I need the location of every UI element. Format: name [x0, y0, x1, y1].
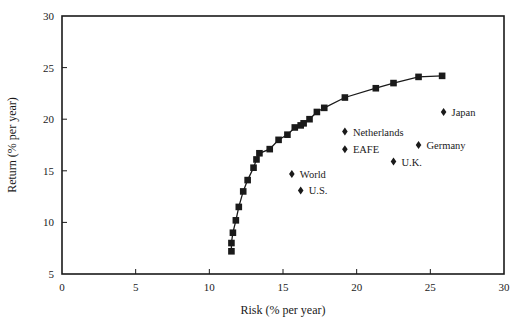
x-axis-title: Risk (% per year): [241, 303, 326, 317]
frontier-square-marker: [284, 131, 291, 138]
market-point-label: Japan: [452, 107, 477, 118]
market-point: U.K.: [391, 157, 422, 168]
market-point-label: EAFE: [353, 144, 379, 155]
frontier-square-marker: [244, 177, 251, 184]
y-axis-ticks: 51015202530: [43, 10, 67, 280]
frontier-square-marker: [240, 188, 247, 195]
market-point-label: U.S.: [309, 185, 328, 196]
y-tick-label: 20: [43, 113, 55, 125]
x-tick-label: 30: [499, 281, 511, 293]
diamond-marker-icon: [298, 186, 304, 194]
market-point: EAFE: [342, 144, 379, 155]
frontier-square-marker: [233, 217, 240, 224]
x-tick-label: 25: [425, 281, 437, 293]
frontier-square-marker: [306, 116, 313, 123]
market-point: World: [289, 169, 327, 180]
frontier-square-marker: [256, 150, 263, 157]
diamond-marker-icon: [441, 108, 447, 116]
frontier-square-marker: [342, 94, 349, 101]
market-point-label: U.K.: [402, 157, 422, 168]
y-tick-label: 10: [43, 216, 55, 228]
diamond-marker-icon: [416, 141, 422, 149]
market-point-label: Germany: [427, 140, 467, 151]
frontier-square-marker: [390, 80, 397, 87]
frontier-square-marker: [228, 240, 235, 247]
x-tick-label: 0: [59, 281, 65, 293]
x-tick-label: 20: [351, 281, 363, 293]
market-point: Japan: [441, 107, 476, 118]
frontier-square-marker: [321, 105, 328, 112]
market-point: Netherlands: [342, 127, 404, 138]
market-points-series: JapanNetherlandsGermanyEAFEU.K.WorldU.S.: [289, 107, 476, 196]
x-tick-label: 5: [133, 281, 139, 293]
frontier-square-marker: [230, 229, 237, 236]
frontier-square-marker: [415, 74, 422, 81]
market-point-label: Netherlands: [353, 127, 404, 138]
frontier-square-marker: [314, 109, 321, 116]
diamond-marker-icon: [342, 128, 348, 136]
frontier-square-marker: [236, 204, 243, 211]
x-tick-label: 10: [204, 281, 216, 293]
frontier-square-marker: [373, 85, 380, 92]
y-tick-label: 5: [49, 268, 55, 280]
risk-return-chart: 051015202530 51015202530 Risk (% per yea…: [0, 0, 517, 329]
y-tick-label: 25: [43, 62, 55, 74]
frontier-square-marker: [300, 120, 307, 127]
market-point: Germany: [416, 140, 467, 151]
market-point: U.S.: [298, 185, 327, 196]
frontier-square-marker: [275, 137, 282, 144]
frontier-square-marker: [291, 124, 298, 131]
market-point-label: World: [300, 169, 327, 180]
frontier-square-marker: [266, 146, 273, 153]
x-axis-ticks: 051015202530: [59, 269, 510, 293]
frontier-square-marker: [250, 164, 257, 171]
frontier-square-marker: [253, 156, 260, 163]
diamond-marker-icon: [289, 170, 295, 178]
frontier-square-marker: [228, 248, 235, 255]
y-axis-title: Return (% per year): [5, 97, 19, 193]
x-tick-label: 15: [278, 281, 290, 293]
diamond-marker-icon: [391, 158, 397, 166]
frontier-square-marker: [439, 73, 446, 80]
diamond-marker-icon: [342, 145, 348, 153]
y-tick-label: 30: [43, 10, 55, 22]
y-tick-label: 15: [43, 165, 55, 177]
